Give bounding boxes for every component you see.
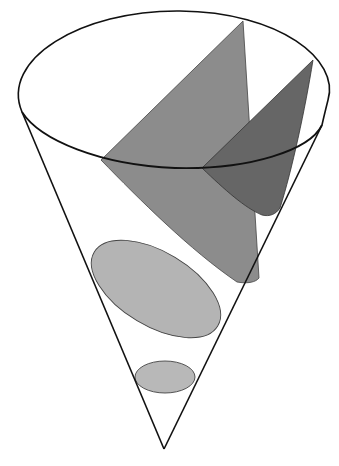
- conic-sections-diagram: [0, 0, 339, 466]
- diagram-canvas: [0, 0, 339, 466]
- circle-section: [135, 361, 195, 393]
